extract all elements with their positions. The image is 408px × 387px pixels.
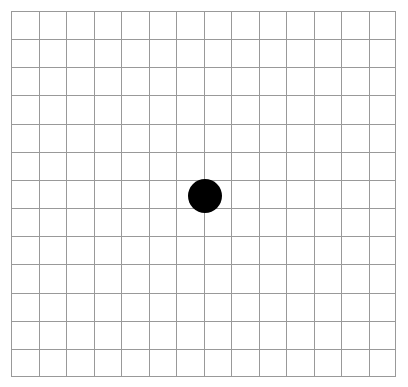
fixation-dot: [188, 179, 222, 213]
amsler-grid-canvas: [0, 0, 408, 387]
